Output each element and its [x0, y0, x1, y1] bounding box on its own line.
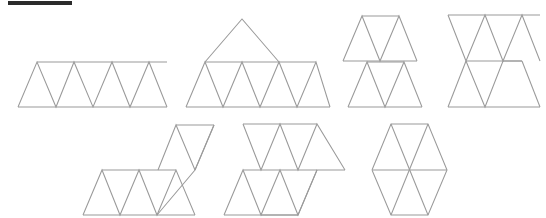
- net-4-hexiamond-interlocked-rows: [448, 15, 540, 107]
- net-7-hexiamond-hexagon: [372, 124, 447, 215]
- net-4-edge-8: [522, 61, 540, 107]
- net-3-edge-4: [348, 62, 422, 107]
- net-3-edge-1: [343, 16, 417, 61]
- net-2-edge-1: [186, 62, 330, 107]
- net-5-edge-1: [83, 170, 195, 215]
- figure-canvas: [0, 0, 546, 218]
- net-6-edge-5: [243, 124, 345, 170]
- net-4-edge-6: [448, 61, 466, 107]
- net-5-edge-4: [158, 125, 195, 170]
- net-6-hexiamond-butterfly: [224, 124, 345, 215]
- net-1-hexiamond-straight-strip: [18, 62, 167, 107]
- net-1-edge-1: [18, 62, 167, 107]
- net-3-hexiamond-two-separate-rows: [343, 16, 422, 107]
- net-4-edge-1: [448, 15, 540, 61]
- net-6-edge-4: [261, 170, 345, 215]
- net-2-hexiamond-row-five-plus-peak: [186, 19, 330, 107]
- net-6-edge-1: [224, 170, 317, 215]
- net-5-hexiamond-staircase: [83, 125, 214, 215]
- net-4-edge-5: [466, 61, 522, 107]
- net-2-edge-4: [205, 19, 279, 62]
- polyiamond-nets-figure: [0, 0, 546, 218]
